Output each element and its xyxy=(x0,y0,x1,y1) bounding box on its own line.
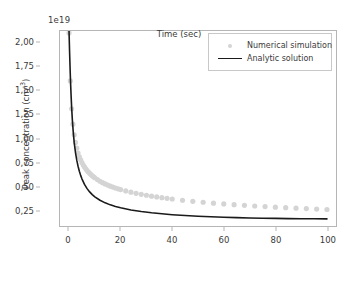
scatter-point xyxy=(314,207,319,212)
scatter-marker-icon xyxy=(213,44,247,48)
scatter-point xyxy=(190,199,195,204)
x-tick-label: 60 xyxy=(219,235,230,245)
scatter-point xyxy=(144,193,149,198)
scatter-point xyxy=(252,203,257,208)
x-tick-label: 20 xyxy=(115,235,126,245)
scatter-point xyxy=(180,198,185,203)
scatter-point xyxy=(170,196,175,201)
legend-label-analytic-solution: Analytic solution xyxy=(247,54,313,63)
y-tick-mark xyxy=(36,114,40,115)
scatter-point xyxy=(154,194,159,199)
y-tick-mark xyxy=(36,162,40,163)
scatter-point xyxy=(283,205,288,210)
y-tick-label: 1,75 xyxy=(15,61,34,71)
x-axis-ticks: 020406080100 xyxy=(0,227,358,289)
y-tick-label: 1,25 xyxy=(15,109,34,119)
y-tick-mark xyxy=(36,65,40,66)
line-marker-icon xyxy=(213,58,247,60)
x-tick-label: 0 xyxy=(65,235,70,245)
legend-item-numerical-simulation: Numerical simulation xyxy=(213,39,327,52)
scatter-point xyxy=(164,196,169,201)
y-tick-label: 0,50 xyxy=(15,182,34,192)
scatter-point xyxy=(221,201,226,206)
scatter-point xyxy=(262,204,267,209)
x-tick-mark xyxy=(68,227,69,231)
y-tick-mark xyxy=(36,187,40,188)
legend-label-numerical-simulation: Numerical simulation xyxy=(247,41,332,50)
scatter-point xyxy=(118,187,123,192)
x-tick-mark xyxy=(327,227,328,231)
x-tick-label: 40 xyxy=(167,235,178,245)
x-tick-mark xyxy=(223,227,224,231)
x-tick-mark xyxy=(275,227,276,231)
y-tick-mark xyxy=(36,138,40,139)
x-tick-label: 80 xyxy=(271,235,282,245)
scatter-point xyxy=(159,195,164,200)
scatter-point xyxy=(242,203,247,208)
scatter-point xyxy=(273,205,278,210)
scatter-point xyxy=(139,192,144,197)
scatter-point xyxy=(128,190,133,195)
scatter-point xyxy=(201,200,206,205)
y-tick-label: 0,25 xyxy=(15,206,34,216)
chart-figure: 1e19 Peak concentration (cm-3) 0,250,500… xyxy=(0,0,358,289)
y-tick-mark xyxy=(36,211,40,212)
x-tick-label: 100 xyxy=(320,235,336,245)
scatter-point xyxy=(134,191,139,196)
scatter-point xyxy=(293,206,298,211)
x-tick-mark xyxy=(120,227,121,231)
y-tick-mark xyxy=(36,41,40,42)
legend-item-analytic-solution: Analytic solution xyxy=(213,52,327,65)
y-tick-label: 0,75 xyxy=(15,158,34,168)
y-tick-label: 1,50 xyxy=(15,85,34,95)
y-tick-mark xyxy=(36,90,40,91)
scatter-point xyxy=(149,194,154,199)
chart-legend: Numerical simulation Analytic solution xyxy=(208,33,332,71)
x-tick-mark xyxy=(172,227,173,231)
scatter-point xyxy=(304,206,309,211)
scatter-point xyxy=(324,207,329,212)
scatter-point xyxy=(232,202,237,207)
y-tick-label: 1,00 xyxy=(15,134,34,144)
scatter-point xyxy=(211,201,216,206)
scatter-point xyxy=(123,188,128,193)
